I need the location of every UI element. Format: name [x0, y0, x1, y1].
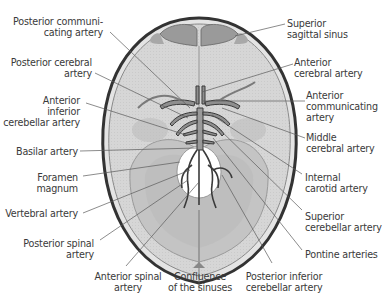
label-confluence-of-the-sinuses: Confluence of the sinuses — [162, 271, 238, 293]
label-anterior-spinal-artery: Anterior spinal artery — [90, 271, 166, 293]
label-basilar-artery: Basilar artery — [16, 146, 78, 157]
label-internal-carotid-artery: Internal carotid artery — [305, 172, 368, 194]
label-posterior-inferior-cerebellar-artery: Posterior inferior cerebellar artery — [236, 271, 332, 293]
label-foramen-magnum: Foramen magnum — [36, 172, 78, 194]
label-anterior-inferior-cerebellar-artery: Anterior inferior cerebellar artery — [3, 95, 80, 128]
label-middle-cerebral-artery: Middle cerebral artery — [306, 132, 375, 154]
label-posterior-cerebral-artery: Posterior cerebral artery — [11, 57, 92, 79]
label-posterior-spinal-artery: Posterior spinal artery — [23, 238, 94, 260]
anatomy-figure: Posterior communi- cating artery Posteri… — [0, 0, 386, 304]
label-pontine-arteries: Pontine arteries — [305, 249, 378, 260]
label-vertebral-artery: Vertebral artery — [5, 208, 78, 219]
label-superior-sagittal-sinus: Superior sagittal sinus — [287, 18, 348, 40]
label-superior-cerebellar-artery: Superior cerebellar artery — [305, 211, 382, 233]
label-posterior-communicating-artery: Posterior communi- cating artery — [13, 16, 103, 38]
label-anterior-communicating-artery: Anterior communicating artery — [306, 90, 378, 123]
label-anterior-cerebral-artery: Anterior cerebral artery — [294, 57, 363, 79]
